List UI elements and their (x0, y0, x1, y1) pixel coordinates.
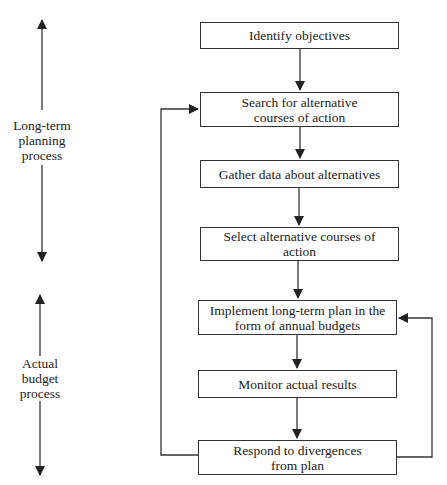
step-monitor-results: Monitor actual results (198, 370, 397, 398)
long-term-planning-label: Long-term planning process (0, 118, 87, 163)
actual-budget-label-line-2: budget (0, 371, 85, 386)
step-label: Select alternative courses of action (221, 229, 378, 259)
actual-budget-label: Actual budget process (0, 356, 85, 401)
step-label: Implement long-term plan in the form of … (209, 303, 386, 333)
long-term-label-line-1: Long-term (0, 118, 87, 133)
step-identify-objectives: Identify objectives (200, 22, 399, 49)
step-label: Monitor actual results (238, 377, 356, 392)
step-label: Search for alternative courses of action (231, 95, 368, 125)
long-term-label-line-3: process (0, 148, 87, 163)
step-search-alternatives: Search for alternative courses of action (200, 92, 399, 127)
step-respond-divergences: Respond to divergences from plan (198, 440, 397, 475)
edge-respond-implement-loop (397, 318, 432, 457)
step-label: Respond to divergences from plan (221, 443, 374, 473)
step-label: Gather data about alternatives (219, 167, 381, 182)
step-gather-data: Gather data about alternatives (200, 160, 399, 188)
step-select-alternatives: Select alternative courses of action (200, 227, 399, 261)
actual-budget-label-line-3: process (0, 386, 85, 401)
step-label: Identify objectives (249, 28, 350, 43)
step-implement-plan: Implement long-term plan in the form of … (198, 300, 397, 335)
actual-budget-label-line-1: Actual (0, 356, 85, 371)
long-term-label-line-2: planning (0, 133, 87, 148)
edge-respond-search-loop (161, 109, 198, 455)
